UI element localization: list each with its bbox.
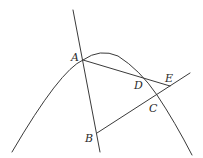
label-c: C bbox=[149, 102, 158, 115]
label-b: B bbox=[84, 132, 93, 145]
line-ab bbox=[73, 10, 100, 152]
geometry-diagram: A D E C B bbox=[0, 0, 203, 158]
label-d: D bbox=[133, 79, 143, 92]
label-e: E bbox=[164, 72, 173, 85]
label-a: A bbox=[70, 51, 79, 64]
segment-ae bbox=[83, 60, 170, 86]
parabola-curve bbox=[12, 53, 192, 155]
line-bc bbox=[97, 73, 190, 133]
